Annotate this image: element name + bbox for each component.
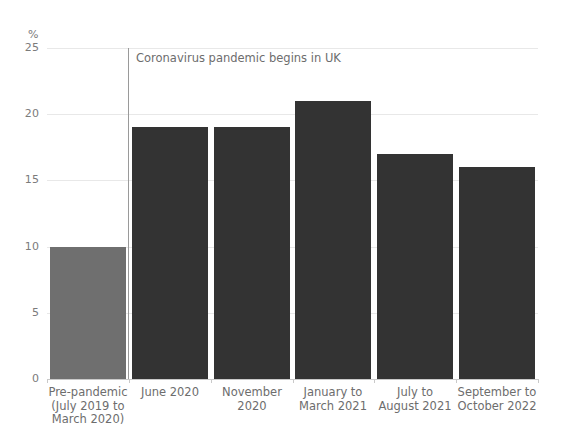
bar-4[interactable]	[295, 101, 371, 379]
x-axis-label-line: October 2022	[456, 400, 538, 414]
x-axis-label-line: (July 2019 to	[47, 400, 129, 414]
x-axis-label-line: June 2020	[129, 386, 211, 400]
bar-6[interactable]	[459, 167, 535, 379]
x-axis-tick-mark	[129, 379, 130, 383]
gridline-25	[47, 48, 538, 49]
x-axis-tick-mark	[47, 379, 48, 383]
bar-5[interactable]	[377, 154, 453, 379]
y-axis-tick-20: 20	[0, 108, 39, 119]
bar-1[interactable]	[50, 247, 126, 379]
x-axis-tick-mark	[211, 379, 212, 383]
x-axis-label-line: January to	[292, 386, 374, 400]
annotation-label-pandemic-start: Coronavirus pandemic begins in UK	[136, 52, 341, 65]
y-axis-tick-15: 15	[0, 174, 39, 185]
y-axis-tick-10: 10	[0, 241, 39, 252]
y-axis-tick-25: 25	[0, 42, 39, 53]
bar-2[interactable]	[132, 127, 208, 379]
x-axis-label-line: March 2020)	[47, 413, 129, 427]
x-axis-tick-mark	[293, 379, 294, 383]
x-axis-label-3: November 2020	[211, 386, 293, 413]
bar-3[interactable]	[214, 127, 290, 379]
x-axis-label-6: September toOctober 2022	[456, 386, 538, 413]
x-axis-tick-mark	[456, 379, 457, 383]
bar-chart: % 0510152025 Coronavirus pandemic begins…	[0, 0, 572, 437]
x-axis-label-line: August 2021	[374, 400, 456, 414]
x-axis-label-2: June 2020	[129, 386, 211, 400]
x-axis-tick-mark	[374, 379, 375, 383]
x-axis-label-5: July toAugust 2021	[374, 386, 456, 413]
x-axis-label-line: July to	[374, 386, 456, 400]
x-axis-label-1: Pre-pandemic(July 2019 toMarch 2020)	[47, 386, 129, 427]
gridline-20	[47, 114, 538, 115]
y-axis-tick-5: 5	[0, 307, 39, 318]
y-axis-tick-0: 0	[0, 373, 39, 384]
x-axis-label-line: November 2020	[211, 386, 293, 413]
x-axis-tick-mark	[538, 379, 539, 383]
x-axis-label-line: September to	[456, 386, 538, 400]
annotation-line-pandemic-start	[128, 48, 129, 379]
x-axis-label-line: Pre-pandemic	[47, 386, 129, 400]
x-axis-label-4: January toMarch 2021	[292, 386, 374, 413]
y-axis-unit-label: %	[28, 29, 38, 40]
x-axis-label-line: March 2021	[292, 400, 374, 414]
